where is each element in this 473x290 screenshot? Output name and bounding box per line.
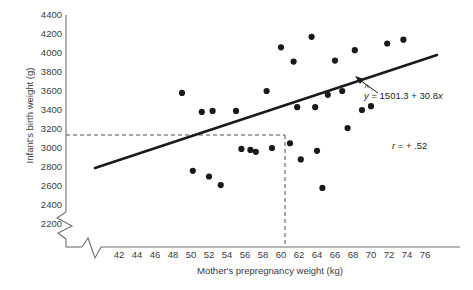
correlation-value-text: = + .52 bbox=[398, 140, 428, 151]
scatter-point bbox=[238, 146, 244, 152]
regression-equation-annotation: ^ y = 1501.3 + 30.8x bbox=[364, 90, 443, 101]
x-tick-label: 54 bbox=[217, 249, 237, 260]
scatter-point bbox=[294, 104, 300, 110]
scatter-point bbox=[179, 90, 185, 96]
scatter-point bbox=[253, 149, 259, 155]
scatter-plot-figure: 2200240026002800300032003400360038004000… bbox=[0, 0, 473, 290]
x-tick-label: 74 bbox=[397, 249, 417, 260]
scatter-point bbox=[233, 108, 239, 114]
x-tick-label: 72 bbox=[379, 249, 399, 260]
x-tick-label: 50 bbox=[181, 249, 201, 260]
scatter-point bbox=[278, 44, 284, 50]
y-axis-title: Infant's birth weight (g) bbox=[24, 41, 35, 191]
y-tick-label: 2200 bbox=[28, 218, 62, 229]
scatter-point bbox=[199, 109, 205, 115]
scatter-point bbox=[319, 185, 325, 191]
x-axis-tick-labels: 424446485052545658606264666870727476 bbox=[0, 249, 473, 263]
y-tick-label: 2400 bbox=[28, 199, 62, 210]
x-tick-label: 48 bbox=[163, 249, 183, 260]
regression-line bbox=[95, 55, 437, 168]
scatter-point bbox=[218, 182, 224, 188]
scatter-point bbox=[190, 168, 196, 174]
y-tick-label: 4400 bbox=[28, 9, 62, 20]
scatter-point bbox=[314, 148, 320, 154]
scatter-point bbox=[206, 173, 212, 179]
regression-equation-text: = 1501.3 + 30.8 bbox=[371, 90, 438, 101]
x-tick-label: 46 bbox=[145, 249, 165, 260]
x-tick-label: 52 bbox=[199, 249, 219, 260]
scatter-point bbox=[312, 104, 318, 110]
y-hat-caret-icon: ^ bbox=[365, 83, 369, 93]
scatter-point bbox=[384, 40, 390, 46]
x-tick-label: 60 bbox=[271, 249, 291, 260]
x-tick-label: 58 bbox=[253, 249, 273, 260]
x-tick-label: 44 bbox=[127, 249, 147, 260]
scatter-point bbox=[291, 58, 297, 64]
scatter-point bbox=[332, 58, 338, 64]
x-tick-label: 56 bbox=[235, 249, 255, 260]
scatter-point bbox=[359, 107, 365, 113]
scatter-point bbox=[325, 92, 331, 98]
x-tick-label: 76 bbox=[415, 249, 435, 260]
x-tick-label: 62 bbox=[289, 249, 309, 260]
r-symbol: r bbox=[392, 140, 395, 151]
scatter-point bbox=[298, 156, 304, 162]
correlation-annotation: r = + .52 bbox=[392, 140, 427, 151]
x-axis-title: Mother's prepregnancy weight (kg) bbox=[110, 265, 430, 276]
x-tick-label: 68 bbox=[343, 249, 363, 260]
y-tick-label: 4200 bbox=[28, 28, 62, 39]
scatter-points-group bbox=[179, 34, 407, 191]
scatter-point bbox=[400, 37, 406, 43]
x-tick-label: 42 bbox=[109, 249, 129, 260]
scatter-point bbox=[269, 145, 275, 151]
scatter-point bbox=[345, 125, 351, 131]
scatter-point bbox=[309, 34, 315, 40]
x-tick-label: 66 bbox=[325, 249, 345, 260]
scatter-point bbox=[247, 147, 253, 153]
regression-x-symbol: x bbox=[438, 90, 443, 101]
x-tick-label: 70 bbox=[361, 249, 381, 260]
scatter-point bbox=[210, 108, 216, 114]
x-tick-label: 64 bbox=[307, 249, 327, 260]
scatter-point bbox=[352, 47, 358, 53]
scatter-point bbox=[339, 88, 345, 94]
scatter-point bbox=[287, 140, 293, 146]
scatter-point bbox=[264, 88, 270, 94]
scatter-point bbox=[368, 103, 374, 109]
